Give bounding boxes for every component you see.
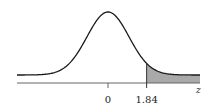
normal-curve-chart: 0 1.84 z: [0, 0, 209, 112]
shaded-right-tail: [147, 63, 200, 83]
tick-label-zero: 0: [105, 94, 111, 105]
axis-label-z: z: [195, 85, 201, 95]
density-curve: [17, 12, 200, 75]
tick-label-cutoff: 1.84: [136, 94, 158, 105]
